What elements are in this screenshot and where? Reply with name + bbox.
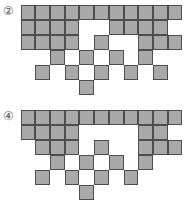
grid-square [79, 50, 94, 65]
grid-square [138, 35, 153, 50]
grid-square [50, 35, 65, 50]
grid-square [65, 20, 80, 35]
grid-square [65, 5, 80, 20]
grid-square [65, 110, 80, 125]
grid-square [35, 125, 50, 140]
grid-square [50, 20, 65, 35]
grid-square [94, 140, 109, 155]
grid-square [65, 35, 80, 50]
grid-square [35, 170, 50, 185]
grid-square [79, 185, 94, 200]
grid-square [138, 5, 153, 20]
grid-square [124, 5, 139, 20]
grid-square [21, 125, 36, 140]
grid-square [138, 50, 153, 65]
grid-square [21, 5, 36, 20]
grid-square [124, 65, 139, 80]
grid-square [50, 155, 65, 170]
grid-square [168, 140, 183, 155]
grid-square [35, 140, 50, 155]
grid-square [94, 5, 109, 20]
grid-square [94, 170, 109, 185]
grid-square [21, 20, 36, 35]
figure-label: ④ [3, 109, 14, 123]
grid-square [124, 110, 139, 125]
grid-square [138, 125, 153, 140]
grid-square [109, 5, 124, 20]
grid-square [79, 155, 94, 170]
grid-square [65, 125, 80, 140]
grid-square [109, 155, 124, 170]
grid-square [35, 35, 50, 50]
grid-square [35, 65, 50, 80]
grid-square [65, 170, 80, 185]
grid-square [35, 110, 50, 125]
grid-square [109, 110, 124, 125]
grid-square [138, 140, 153, 155]
grid-square [79, 5, 94, 20]
grid-square [109, 20, 124, 35]
grid-square [153, 110, 168, 125]
grid-square [124, 20, 139, 35]
grid-square [21, 35, 36, 50]
grid-square [35, 20, 50, 35]
grid-square [153, 5, 168, 20]
grid-square [94, 65, 109, 80]
grid-square [50, 110, 65, 125]
grid-square [65, 65, 80, 80]
grid-square [35, 5, 50, 20]
grid-square [153, 140, 168, 155]
grid-square [168, 110, 183, 125]
grid-square [138, 155, 153, 170]
grid-square [153, 65, 168, 80]
grid-square [138, 20, 153, 35]
grid-square [79, 80, 94, 95]
grid-square [124, 170, 139, 185]
grid-square [50, 5, 65, 20]
grid-square [65, 140, 80, 155]
grid-square [50, 140, 65, 155]
figure-label: ② [3, 4, 14, 18]
grid-square [21, 110, 36, 125]
grid-square [153, 20, 168, 35]
grid-square [153, 35, 168, 50]
grid-square [50, 50, 65, 65]
grid-square [79, 110, 94, 125]
grid-square [50, 125, 65, 140]
grid-square [153, 125, 168, 140]
grid-square [109, 50, 124, 65]
grid-square [94, 35, 109, 50]
grid-square [138, 110, 153, 125]
grid-square [94, 110, 109, 125]
grid-square [168, 5, 183, 20]
grid-square [168, 35, 183, 50]
